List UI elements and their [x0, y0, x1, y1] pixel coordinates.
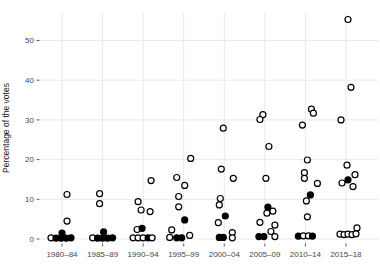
- data-point-filled: [179, 235, 185, 241]
- data-point-open: [215, 220, 221, 226]
- data-point-filled: [307, 192, 313, 198]
- data-point-open: [266, 144, 272, 150]
- data-point-open: [188, 155, 194, 161]
- x-tick-label: 1980–84: [46, 250, 78, 259]
- data-point-open: [272, 234, 278, 240]
- data-point-open: [272, 222, 278, 228]
- data-point-open: [353, 231, 359, 237]
- axis-tick-labels: 010203040501980–841985–891990–941995–992…: [25, 36, 362, 259]
- x-tick-label: 2000–04: [209, 250, 241, 259]
- x-tick-label: 2015–18: [330, 250, 362, 259]
- data-point-filled: [182, 217, 188, 223]
- data-point-open: [230, 175, 236, 181]
- data-point-open: [257, 117, 263, 123]
- data-point-filled: [261, 234, 267, 240]
- data-point-filled: [59, 230, 65, 236]
- data-point-open: [218, 166, 224, 172]
- y-tick-label: 50: [25, 36, 34, 45]
- y-axis-title: Percentage of the votes: [1, 83, 11, 173]
- data-point-open: [303, 198, 309, 204]
- data-point-open: [176, 204, 182, 210]
- x-tick-label: 1995–99: [168, 250, 200, 259]
- data-point-open: [97, 191, 103, 197]
- data-point-open: [147, 209, 153, 215]
- data-point-filled: [101, 229, 107, 235]
- data-point-open: [97, 201, 103, 207]
- scatter-plot: 010203040501980–841985–891990–941995–992…: [0, 0, 380, 270]
- x-tick-label: 1985–89: [87, 250, 119, 259]
- data-point-open: [299, 122, 305, 128]
- data-point-open: [174, 175, 180, 181]
- data-point-open: [217, 196, 223, 202]
- data-point-open: [257, 219, 263, 225]
- data-point-open: [138, 207, 144, 213]
- data-point-open: [167, 234, 173, 240]
- data-point-open: [263, 175, 269, 181]
- data-point-open: [148, 178, 154, 184]
- data-point-open: [187, 232, 193, 238]
- data-point-filled: [345, 177, 351, 183]
- x-tick-label: 2010–14: [290, 250, 322, 259]
- y-tick-label: 30: [25, 116, 34, 125]
- data-point-open: [304, 157, 310, 163]
- data-point-open: [229, 235, 235, 241]
- data-point-open: [149, 235, 155, 241]
- data-point-open: [64, 192, 70, 198]
- y-tick-label: 40: [25, 76, 34, 85]
- data-point-open: [354, 225, 360, 231]
- x-tick-label: 2005–09: [249, 250, 281, 259]
- y-tick-label: 20: [25, 155, 34, 164]
- data-point-open: [64, 218, 70, 224]
- data-point-open: [344, 162, 350, 168]
- data-point-open: [338, 117, 344, 123]
- data-point-open: [220, 125, 226, 131]
- y-tick-label: 0: [30, 235, 35, 244]
- data-point-open: [182, 182, 188, 188]
- data-point-open: [348, 84, 354, 90]
- gridlines: [40, 13, 378, 243]
- axis-ticks: [37, 41, 346, 247]
- data-point-filled: [110, 235, 116, 241]
- data-point-open: [169, 227, 175, 233]
- data-point-filled: [139, 225, 145, 231]
- data-point-open: [216, 202, 222, 208]
- data-point-filled: [309, 233, 315, 239]
- data-point-filled: [68, 235, 74, 241]
- data-point-open: [314, 180, 320, 186]
- data-point-open: [350, 184, 356, 190]
- plot-canvas: 010203040501980–841985–891990–941995–992…: [0, 0, 380, 270]
- data-point-open: [264, 210, 270, 216]
- data-point-open: [345, 17, 351, 23]
- data-point-open: [270, 208, 276, 214]
- data-point-open: [135, 199, 141, 205]
- data-point-open: [304, 214, 310, 220]
- data-point-open: [352, 172, 358, 178]
- x-tick-label: 1990–94: [128, 250, 160, 259]
- data-point-open: [339, 180, 345, 186]
- y-tick-label: 10: [25, 195, 34, 204]
- data-point-open: [176, 194, 182, 200]
- data-point-filled: [220, 234, 226, 240]
- data-point-filled: [222, 213, 228, 219]
- data-point-open: [301, 175, 307, 181]
- data-points: [48, 17, 360, 242]
- data-point-open: [310, 110, 316, 116]
